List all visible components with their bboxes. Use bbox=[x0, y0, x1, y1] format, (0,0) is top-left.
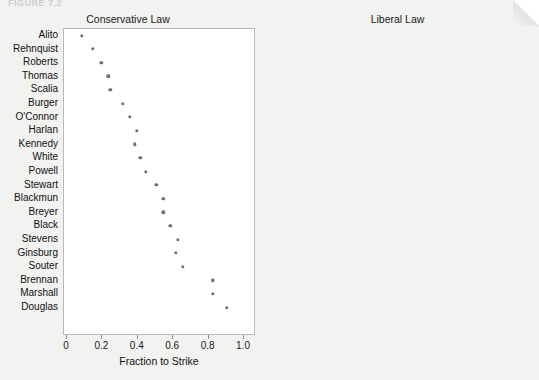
x-axis-tick bbox=[137, 335, 138, 339]
y-axis-tick-label: Alito bbox=[3, 28, 61, 42]
y-axis-tick-label: Thomas bbox=[3, 69, 61, 83]
x-axis-tick bbox=[172, 335, 173, 339]
y-axis-tick-label: O'Connor bbox=[3, 110, 61, 124]
y-axis-tick-label: Souter bbox=[3, 259, 61, 273]
data-point bbox=[211, 279, 214, 282]
x-axis-tick bbox=[66, 335, 67, 339]
data-point bbox=[225, 306, 228, 309]
data-point bbox=[174, 251, 177, 254]
data-point bbox=[176, 238, 179, 241]
x-axis-tick-label: 0.8 bbox=[201, 340, 215, 351]
data-point bbox=[128, 115, 131, 118]
x-axis-tick-label: 0.6 bbox=[165, 340, 179, 351]
data-point bbox=[144, 170, 147, 173]
y-axis-tick-label: Rehnquist bbox=[3, 42, 61, 56]
y-axis-tick-label: Stewart bbox=[3, 178, 61, 192]
data-point bbox=[139, 156, 142, 159]
data-point bbox=[211, 292, 214, 295]
y-axis-tick-label: Black bbox=[3, 218, 61, 232]
data-point bbox=[169, 224, 172, 227]
data-point bbox=[100, 61, 103, 64]
y-axis-tick-label: Scalia bbox=[3, 82, 61, 96]
panel-liberal-law: Liberal Law BlackGinsburgBrennanSouterMa… bbox=[270, 0, 539, 380]
y-axis-tick-label: Roberts bbox=[3, 55, 61, 69]
y-axis-tick-label: Ginsburg bbox=[3, 246, 61, 260]
x-axis-tick-label: 0.4 bbox=[130, 340, 144, 351]
panel-title-conservative: Conservative Law bbox=[0, 13, 256, 25]
x-axis-tick bbox=[101, 335, 102, 339]
y-axis-tick-label: Kennedy bbox=[3, 137, 61, 151]
y-axis-tick-label: Stevens bbox=[3, 232, 61, 246]
y-axis-tick-label: White bbox=[3, 150, 61, 164]
y-axis-tick-label: Burger bbox=[3, 96, 61, 110]
panel-title-liberal: Liberal Law bbox=[270, 13, 525, 25]
y-axis-tick-label: Harlan bbox=[3, 123, 61, 137]
data-point bbox=[121, 102, 124, 105]
data-point bbox=[80, 34, 83, 37]
data-point bbox=[135, 129, 138, 132]
y-axis-tick-label: Brennan bbox=[3, 273, 61, 287]
panel-conservative-law: Conservative Law AlitoRehnquistRobertsTh… bbox=[0, 0, 270, 380]
data-point bbox=[91, 47, 94, 50]
y-axis-tick-label: Douglas bbox=[3, 300, 61, 314]
data-point bbox=[155, 183, 158, 186]
data-point bbox=[162, 197, 165, 200]
y-axis-tick-label: Marshall bbox=[3, 286, 61, 300]
x-axis-tick-label: 0.2 bbox=[94, 340, 108, 351]
x-axis-tick bbox=[243, 335, 244, 339]
x-axis-tick-label: 1.0 bbox=[236, 340, 250, 351]
y-axis-labels-conservative: AlitoRehnquistRobertsThomasScaliaBurgerO… bbox=[3, 28, 61, 313]
x-axis-conservative: Fraction to Strike 00.20.40.60.81.0 bbox=[63, 335, 255, 363]
data-point bbox=[162, 211, 165, 214]
data-point bbox=[109, 88, 112, 91]
x-axis-tick-label: 0 bbox=[63, 340, 69, 351]
data-point bbox=[181, 265, 184, 268]
x-axis-title-conservative: Fraction to Strike bbox=[63, 355, 255, 367]
data-points-conservative bbox=[63, 28, 255, 335]
y-axis-tick-label: Blackmun bbox=[3, 191, 61, 205]
y-axis-tick-label: Powell bbox=[3, 164, 61, 178]
x-axis-tick bbox=[208, 335, 209, 339]
data-point bbox=[107, 75, 110, 78]
y-axis-tick-label: Breyer bbox=[3, 205, 61, 219]
data-point bbox=[133, 143, 136, 146]
